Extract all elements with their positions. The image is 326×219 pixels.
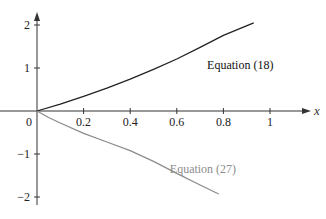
line-chart: 00.20.40.60.81 21−1−2 x Equation (18)Equ… <box>0 0 326 219</box>
y-tick-label: −2 <box>17 190 30 204</box>
x-axis-arrow-icon <box>302 108 311 114</box>
y-tick-label: 2 <box>24 18 30 32</box>
y-axis-arrow-icon <box>34 12 40 21</box>
y-tick-label: −1 <box>17 147 30 161</box>
x-tick-label: 0.2 <box>76 115 91 129</box>
y-tick-label: 1 <box>24 61 30 75</box>
x-tick-label: 0.8 <box>216 115 231 129</box>
x-tick-label: 0.4 <box>123 115 138 129</box>
series-annotation-label: Equation (27) <box>170 162 236 176</box>
x-tick-label: 0.6 <box>169 115 184 129</box>
x-axis-label: x <box>313 103 320 118</box>
x-tick-label: 1 <box>267 115 273 129</box>
x-tick-label: 0 <box>26 115 32 129</box>
series-annotation-label: Equation (18) <box>207 58 273 72</box>
